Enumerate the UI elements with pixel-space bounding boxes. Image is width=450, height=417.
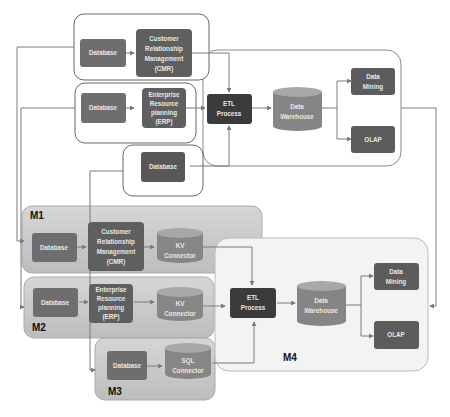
- svg-text:Customer: Customer: [101, 228, 131, 235]
- svg-text:Connector: Connector: [172, 367, 204, 374]
- m1-kv-connector-cylinder[interactable]: KV Connector: [157, 228, 203, 263]
- svg-text:Database: Database: [89, 49, 117, 56]
- m3-database-node[interactable]: Database: [107, 351, 147, 380]
- svg-text:Warehouse: Warehouse: [280, 113, 314, 120]
- m4-label: M4: [283, 352, 297, 363]
- m3-sql-connector-cylinder[interactable]: SQL Connector: [165, 343, 211, 379]
- svg-text:Management: Management: [97, 248, 136, 256]
- svg-text:Enterprise: Enterprise: [148, 91, 180, 99]
- svg-text:Database: Database: [149, 163, 177, 170]
- svg-text:Database: Database: [113, 362, 141, 369]
- top-data-mining-node[interactable]: Data Mining: [351, 68, 395, 95]
- svg-text:OLAP: OLAP: [387, 331, 405, 338]
- svg-text:Warehouse: Warehouse: [304, 307, 338, 314]
- svg-text:Management: Management: [145, 55, 184, 63]
- architecture-diagram: Database Customer Relationship Managemen…: [0, 0, 450, 417]
- svg-text:Mining: Mining: [363, 83, 383, 91]
- top-crm-node[interactable]: Customer Relationship Management (CMR): [136, 29, 192, 77]
- svg-text:planning: planning: [98, 304, 124, 312]
- svg-text:Process: Process: [241, 304, 266, 311]
- m2-label: M2: [32, 322, 46, 333]
- top-etl-process-node[interactable]: ETL Process: [207, 94, 252, 124]
- svg-text:Enterprise: Enterprise: [95, 286, 127, 294]
- svg-text:(ERP): (ERP): [102, 313, 119, 321]
- svg-text:Data: Data: [290, 103, 304, 110]
- m1-database-node[interactable]: Database: [32, 233, 77, 262]
- top-standalone-database-node[interactable]: Database: [141, 152, 185, 182]
- svg-text:Resource: Resource: [150, 100, 179, 107]
- svg-text:Customer: Customer: [149, 35, 179, 42]
- m4-data-warehouse-cylinder[interactable]: Data Warehouse: [297, 281, 346, 326]
- top-erp-node[interactable]: Enterprise Resource planning (ERP): [142, 88, 186, 128]
- svg-text:Data: Data: [366, 73, 380, 80]
- m1-label: M1: [30, 210, 44, 221]
- svg-text:Database: Database: [89, 104, 117, 111]
- svg-text:Connector: Connector: [164, 310, 196, 317]
- svg-text:Relationship: Relationship: [145, 45, 183, 53]
- svg-text:OLAP: OLAP: [364, 136, 382, 143]
- svg-text:(ERP): (ERP): [155, 118, 172, 126]
- svg-text:Relationship: Relationship: [97, 238, 135, 246]
- svg-text:Mining: Mining: [386, 278, 406, 286]
- top-olap-node[interactable]: OLAP: [351, 126, 395, 153]
- svg-text:Data: Data: [314, 297, 328, 304]
- svg-text:Database: Database: [40, 244, 68, 251]
- svg-text:ETL: ETL: [247, 294, 259, 301]
- m2-erp-node[interactable]: Enterprise Resource planning (ERP): [89, 284, 133, 323]
- svg-text:Connector: Connector: [164, 252, 196, 259]
- svg-text:(CMR): (CMR): [107, 258, 126, 266]
- top-data-warehouse-cylinder[interactable]: Data Warehouse: [273, 87, 322, 131]
- svg-text:SQL: SQL: [182, 357, 195, 365]
- m4-olap-node[interactable]: OLAP: [374, 321, 419, 349]
- svg-text:Resource: Resource: [97, 295, 126, 302]
- svg-text:Data: Data: [389, 268, 403, 275]
- m4-data-mining-node[interactable]: Data Mining: [374, 263, 419, 290]
- m2-database-node[interactable]: Database: [33, 288, 78, 317]
- top-crm-database-node[interactable]: Database: [80, 39, 126, 67]
- svg-text:planning: planning: [151, 109, 177, 117]
- svg-text:Process: Process: [217, 110, 242, 117]
- svg-text:KV: KV: [176, 300, 186, 307]
- m2-kv-connector-cylinder[interactable]: KV Connector: [157, 287, 203, 321]
- top-erp-database-node[interactable]: Database: [81, 93, 126, 123]
- m3-label: M3: [108, 386, 122, 397]
- svg-text:KV: KV: [176, 242, 186, 249]
- svg-text:(CMR): (CMR): [155, 65, 174, 73]
- svg-text:ETL: ETL: [223, 100, 235, 107]
- m1-crm-node[interactable]: Customer Relationship Management (CMR): [88, 222, 144, 271]
- m4-etl-process-node[interactable]: ETL Process: [230, 288, 276, 318]
- svg-text:Database: Database: [41, 299, 69, 306]
